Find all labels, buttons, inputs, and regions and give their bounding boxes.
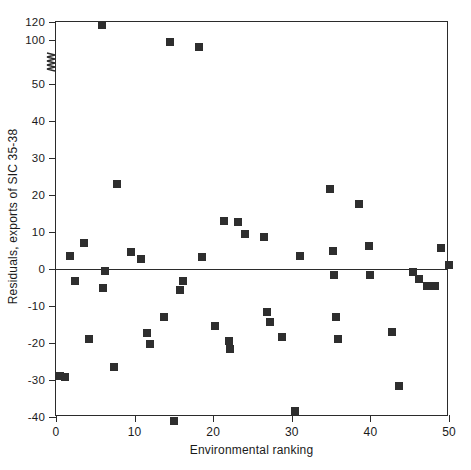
zero-reference-line — [56, 269, 447, 270]
data-point-marker — [211, 322, 219, 330]
data-point-marker — [101, 267, 109, 275]
y-axis-tick-label: 10 — [32, 226, 45, 238]
x-axis-tick — [135, 415, 136, 422]
data-point-marker — [330, 271, 338, 279]
y-axis-tick — [49, 417, 56, 418]
x-axis-tick-label: 10 — [128, 425, 142, 439]
data-point-marker — [241, 230, 249, 238]
y-axis-tick — [49, 158, 56, 159]
data-point-marker — [176, 286, 184, 294]
y-axis-tick-label: 100 — [25, 34, 45, 46]
data-point-marker — [80, 239, 88, 247]
data-point-marker — [166, 38, 174, 46]
x-axis-tick — [56, 415, 57, 422]
data-point-marker — [110, 363, 118, 371]
y-axis-tick-label: 0 — [38, 263, 45, 275]
data-point-marker — [395, 382, 403, 390]
y-axis-tick — [49, 40, 56, 41]
y-axis-tick — [49, 232, 56, 233]
data-point-marker — [127, 248, 135, 256]
data-point-marker — [85, 335, 93, 343]
data-point-marker — [423, 282, 431, 290]
x-axis-tick-label: 30 — [285, 425, 299, 439]
plot-area: -40-30-20-1001020304050100120 0102030405… — [55, 21, 448, 416]
data-point-marker — [437, 244, 445, 252]
data-point-marker — [278, 333, 286, 341]
y-axis-tick-label: -20 — [28, 337, 45, 349]
data-point-marker — [431, 282, 439, 290]
y-axis-tick-label: 40 — [32, 115, 45, 127]
data-point-marker — [226, 345, 234, 353]
data-point-marker — [355, 200, 363, 208]
data-point-marker — [365, 242, 373, 250]
data-point-marker — [198, 253, 206, 261]
data-point-marker — [296, 252, 304, 260]
y-axis-tick — [49, 380, 56, 381]
data-point-marker — [113, 180, 121, 188]
data-point-marker — [388, 328, 396, 336]
x-axis-tick-label: 20 — [206, 425, 220, 439]
data-point-marker — [326, 185, 334, 193]
data-point-marker — [146, 340, 154, 348]
data-point-marker — [366, 271, 374, 279]
y-axis-tick — [49, 121, 56, 122]
x-axis-tick — [213, 415, 214, 422]
y-axis-tick-label: -30 — [28, 374, 45, 386]
y-axis-tick — [49, 195, 56, 196]
scatter-chart-figure: -40-30-20-1001020304050100120 0102030405… — [0, 0, 471, 470]
data-point-marker — [220, 217, 228, 225]
data-point-marker — [445, 261, 453, 269]
data-point-marker — [415, 275, 423, 283]
x-axis-tick-label: 50 — [442, 425, 456, 439]
data-point-marker — [266, 318, 274, 326]
data-point-marker — [263, 308, 271, 316]
y-axis-tick — [49, 22, 56, 23]
data-point-marker — [160, 313, 168, 321]
y-axis-tick-label: -10 — [28, 300, 45, 312]
data-point-marker — [179, 277, 187, 285]
data-point-marker — [225, 337, 233, 345]
y-axis-tick-label: 30 — [32, 152, 45, 164]
data-point-marker — [71, 277, 79, 285]
x-axis-title: Environmental ranking — [55, 443, 448, 457]
data-point-marker — [329, 247, 337, 255]
x-axis-tick-label: 40 — [364, 425, 378, 439]
data-point-marker — [66, 252, 74, 260]
data-point-marker — [61, 373, 69, 381]
y-axis-tick — [49, 84, 56, 85]
y-axis-tick — [49, 343, 56, 344]
data-point-marker — [195, 43, 203, 51]
data-point-marker — [143, 329, 151, 337]
data-point-marker — [260, 233, 268, 241]
data-point-marker — [98, 21, 106, 29]
data-point-marker — [170, 417, 178, 425]
y-axis-tick-label: 50 — [32, 78, 45, 90]
data-point-marker — [99, 284, 107, 292]
data-point-marker — [137, 255, 145, 263]
y-axis-tick-label: 20 — [32, 189, 45, 201]
y-axis-tick-label: 120 — [25, 16, 45, 28]
x-axis-tick-label: 0 — [53, 425, 60, 439]
y-axis-tick-label: -40 — [28, 411, 45, 423]
data-point-marker — [332, 313, 340, 321]
y-axis-tick — [49, 306, 56, 307]
data-point-marker — [334, 335, 342, 343]
x-axis-tick — [370, 415, 371, 422]
y-axis-title: Residuals, exports of SIC 35-38 — [6, 19, 22, 414]
x-axis-tick — [292, 415, 293, 422]
y-axis-tick — [49, 269, 56, 270]
x-axis-tick — [449, 415, 450, 422]
data-point-marker — [234, 218, 242, 226]
axis-break-icon — [46, 51, 58, 73]
